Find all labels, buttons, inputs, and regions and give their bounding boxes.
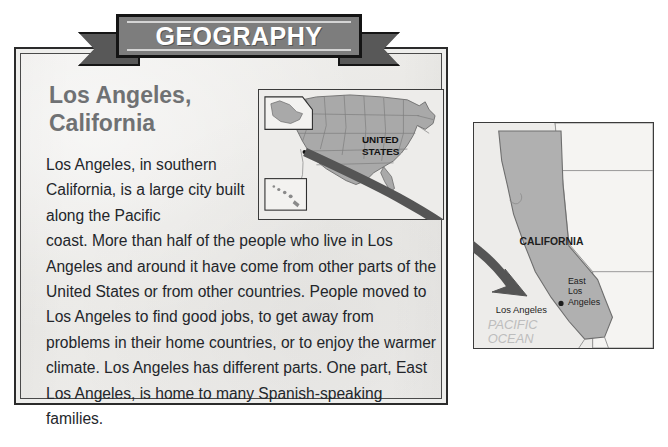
article-paragraph-main: coast. More than half of the people who …: [46, 228, 438, 431]
article-paragraph-intro: Los Angeles, in southern California, is …: [46, 152, 268, 228]
us-map-svg: UNITED STATES: [259, 90, 443, 219]
us-map-label-line2: STATES: [362, 146, 400, 157]
us-los-angeles-dot: [303, 150, 307, 154]
geography-banner: GEOGRAPHY: [78, 14, 400, 66]
banner-rule-bottom: [127, 49, 351, 51]
hawaii-inset-box: [265, 179, 307, 211]
east-la-label-line2: Los: [568, 286, 583, 296]
page-root: Los Angeles, California Los Angeles, in …: [0, 0, 668, 447]
ca-neighbor-oregon: [555, 123, 653, 171]
los-angeles-label: Los Angeles: [496, 304, 547, 315]
los-angeles-dot: [558, 301, 563, 306]
page-title-line1: Los Angeles,: [49, 82, 191, 108]
united-states-map: UNITED STATES: [258, 89, 444, 220]
east-la-label-line3: Angeles: [568, 297, 601, 307]
east-la-label-line1: East: [568, 276, 586, 286]
banner-rule-top: [127, 21, 351, 23]
banner-plate: GEOGRAPHY: [116, 14, 362, 58]
california-state-label: CALIFORNIA: [519, 236, 583, 247]
pacific-ocean-label-line2: OCEAN: [488, 331, 534, 346]
california-map: CALIFORNIA East Los Angeles Los Angeles …: [473, 122, 654, 349]
pacific-ocean-label-line1: PACIFIC: [488, 317, 538, 332]
us-map-label-line1: UNITED: [362, 134, 399, 145]
page-title-line2: California: [49, 110, 155, 136]
page-title: Los Angeles, California: [49, 81, 249, 137]
california-map-svg: CALIFORNIA East Los Angeles Los Angeles …: [474, 123, 653, 348]
banner-title: GEOGRAPHY: [155, 24, 322, 49]
